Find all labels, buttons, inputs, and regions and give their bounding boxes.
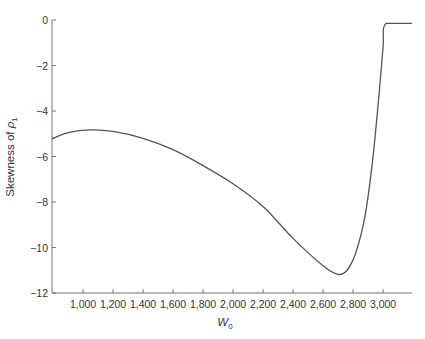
x-tick-label: 1,600 (160, 298, 186, 310)
y-tick-label: −6 (36, 151, 48, 163)
y-tick-label: −4 (36, 105, 48, 117)
x-tick-label: 1,400 (130, 298, 156, 310)
axes: 1,0001,2001,4001,6001,8002,0002,2002,400… (30, 14, 412, 310)
x-tick-label: 1,800 (190, 298, 216, 310)
x-tick-label: 2,400 (280, 298, 306, 310)
x-tick-label: 2,800 (340, 298, 366, 310)
y-tick-label: 0 (42, 14, 48, 26)
x-tick-label: 2,600 (310, 298, 336, 310)
y-tick-label: −10 (30, 242, 48, 254)
y-tick-label: −2 (36, 60, 48, 72)
x-axis-label: W0 (217, 316, 233, 331)
y-axis-label: Skewness of ρ1 (4, 117, 19, 197)
y-tick-label: −12 (30, 287, 48, 299)
x-tick-label: 2,000 (220, 298, 246, 310)
x-tick-label: 1,200 (100, 298, 126, 310)
x-tick-label: 1,000 (70, 298, 96, 310)
skewness-chart: 1,0001,2001,4001,6001,8002,0002,2002,400… (0, 0, 425, 339)
x-tick-label: 3,000 (370, 298, 396, 310)
x-tick-label: 2,200 (250, 298, 276, 310)
y-tick-label: −8 (36, 196, 48, 208)
data-line (52, 23, 412, 274)
